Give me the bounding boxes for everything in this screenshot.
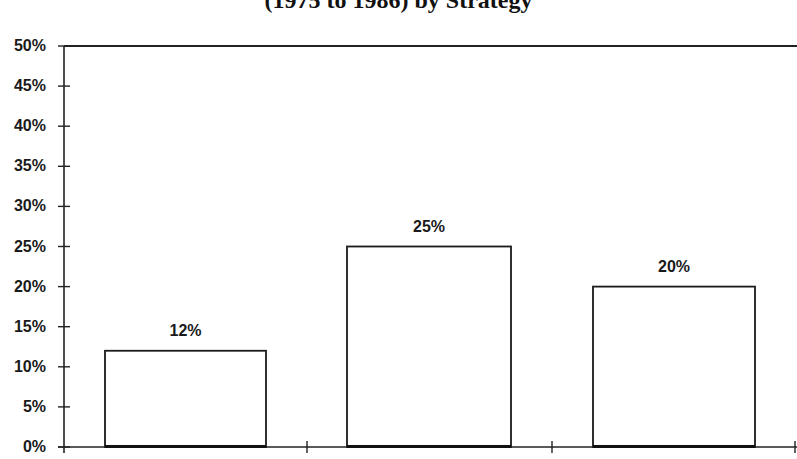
y-axis-tick-label: 50%: [2, 38, 46, 54]
y-axis-tick-label: 35%: [2, 158, 46, 174]
y-axis-tick-label: 5%: [2, 399, 46, 415]
y-axis-tick-label: 0%: [2, 439, 46, 455]
y-axis-tick-label: 20%: [2, 279, 46, 295]
bar-value-label: 20%: [593, 259, 755, 275]
y-axis-tick-label: 10%: [2, 359, 46, 375]
bar-value-label: 25%: [347, 219, 511, 235]
bar: [105, 351, 266, 447]
bar: [347, 247, 511, 448]
y-axis-tick-label: 30%: [2, 198, 46, 214]
bar: [593, 287, 755, 447]
y-axis-tick-label: 40%: [2, 118, 46, 134]
y-axis-tick-label: 15%: [2, 319, 46, 335]
bar-value-label: 12%: [105, 323, 266, 339]
y-axis-tick-label: 25%: [2, 239, 46, 255]
y-axis-tick-label: 45%: [2, 78, 46, 94]
